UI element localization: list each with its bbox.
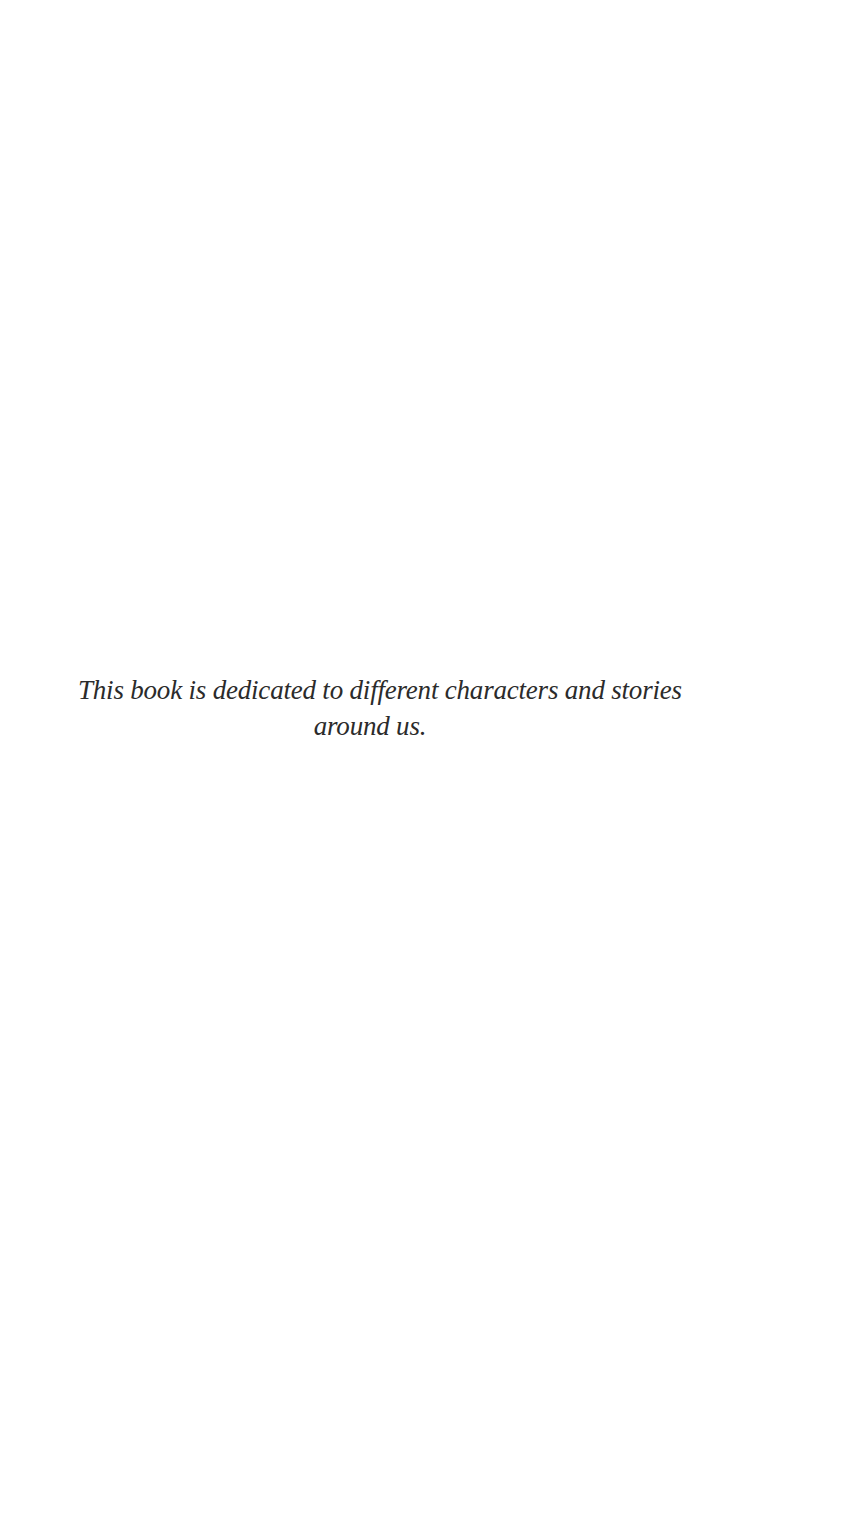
dedication-line-2: around us.: [78, 708, 662, 744]
dedication-text: This book is dedicated to different char…: [78, 672, 662, 744]
dedication-line-1: This book is dedicated to different char…: [78, 672, 662, 708]
book-page: This book is dedicated to different char…: [0, 0, 855, 1535]
